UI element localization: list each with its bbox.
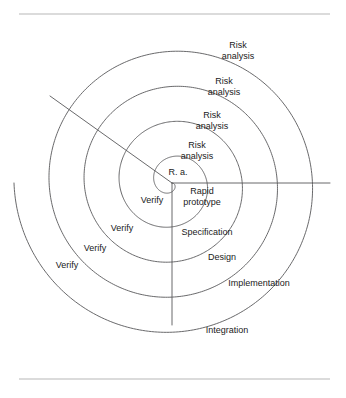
label-risk-analysis-4: Risk analysis <box>181 140 214 161</box>
spiral-model-figure: Risk analysis Risk analysis Risk analysi… <box>0 0 346 398</box>
risk-analysis-4-line2: analysis <box>181 151 214 161</box>
risk-analysis-3-line1: Risk <box>203 110 221 120</box>
label-verify-2: Verify <box>111 223 134 233</box>
label-implementation: Implementation <box>228 278 290 288</box>
label-risk-analysis-3: Risk analysis <box>196 110 229 131</box>
rapid-prototype-line1: Rapid <box>190 186 214 196</box>
label-verify-4: Verify <box>56 260 79 270</box>
risk-analysis-2-line2: analysis <box>208 87 241 97</box>
risk-analysis-3-line2: analysis <box>196 121 229 131</box>
label-integration: Integration <box>206 325 249 335</box>
label-verify-1: Verify <box>141 195 164 205</box>
label-design: Design <box>208 252 236 262</box>
label-specification: Specification <box>181 227 232 237</box>
risk-analysis-2-line1: Risk <box>215 76 233 86</box>
label-verify-3: Verify <box>84 243 107 253</box>
label-risk-analysis-1: Risk analysis <box>222 40 255 61</box>
risk-analysis-4-line1: Risk <box>188 140 206 150</box>
risk-analysis-1-line1: Risk <box>229 40 247 50</box>
spiral-curve <box>14 51 313 332</box>
risk-analysis-1-line2: analysis <box>222 51 255 61</box>
label-rapid-prototype: Rapid prototype <box>183 186 221 207</box>
label-risk-analysis-abbrev: R. a. <box>168 167 187 177</box>
rapid-prototype-line2: prototype <box>183 197 221 207</box>
label-risk-analysis-2: Risk analysis <box>208 76 241 97</box>
radial-line-upper-left <box>50 96 172 183</box>
spiral-model-svg: Risk analysis Risk analysis Risk analysi… <box>0 0 346 398</box>
